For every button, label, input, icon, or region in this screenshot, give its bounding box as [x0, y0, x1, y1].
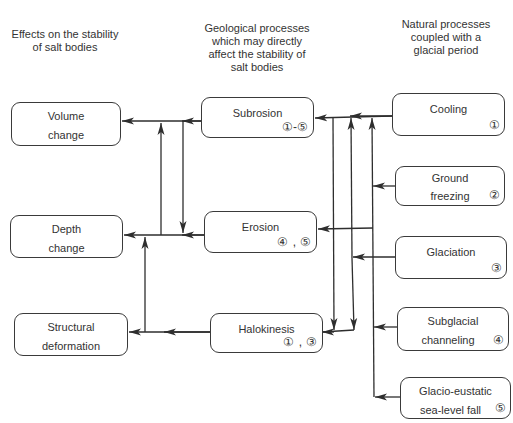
box-ground-freezing-line-1: Ground — [396, 172, 504, 185]
box-glacio-eustatic-badge: ⑤ — [495, 402, 507, 415]
box-volume-change-line-1: Volume — [12, 110, 120, 123]
box-erosion-label: Erosion — [205, 221, 316, 234]
box-halokinesis: Halokinesis ① , ③ — [210, 313, 323, 353]
box-glaciation-badge: ③ — [491, 262, 503, 275]
box-cooling-badge: ① — [489, 119, 501, 132]
box-subglacial-channeling-badge: ④ — [493, 334, 505, 347]
box-erosion-badge: ④ , ⑤ — [277, 236, 312, 249]
box-structural-deformation-line-1: Structural — [15, 321, 127, 334]
box-structural-deformation: Structural deformation — [14, 313, 128, 356]
box-subrosion-label: Subrosion — [202, 107, 313, 120]
box-ground-freezing-badge: ② — [489, 189, 501, 202]
box-subglacial-channeling: Subglacial channeling ④ — [397, 307, 509, 351]
box-depth-change-line-2: change — [11, 242, 122, 255]
box-cooling: Cooling ① — [392, 93, 505, 136]
box-halokinesis-badge: ① , ③ — [283, 336, 318, 349]
box-glacio-eustatic-line-2: sea-level fall — [391, 404, 510, 417]
box-glacio-eustatic-line-1: Glacio-eustatic — [401, 385, 510, 398]
box-glacio-eustatic: Glacio-eustatic sea-level fall ⑤ — [400, 377, 511, 419]
box-ground-freezing: Ground freezing ② — [395, 166, 505, 206]
box-subglacial-channeling-line-1: Subglacial — [398, 315, 508, 328]
box-subrosion-badge: ①-⑤ — [282, 121, 310, 134]
box-depth-change-line-1: Depth — [11, 223, 122, 236]
box-volume-change-line-2: change — [12, 129, 120, 142]
box-subrosion: Subrosion ①-⑤ — [201, 97, 314, 138]
box-subglacial-channeling-line-2: channeling — [388, 334, 508, 347]
box-cooling-label: Cooling — [393, 103, 504, 116]
box-depth-change: Depth change — [10, 215, 123, 258]
box-glaciation-label: Glaciation — [396, 246, 506, 259]
box-glaciation: Glaciation ③ — [395, 236, 507, 279]
box-erosion: Erosion ④ , ⑤ — [204, 211, 317, 253]
box-volume-change: Volume change — [11, 102, 121, 146]
box-structural-deformation-line-2: deformation — [15, 340, 127, 353]
